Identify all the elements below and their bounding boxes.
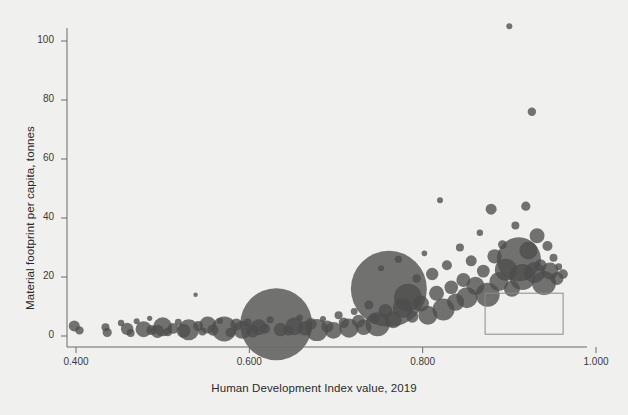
data-point — [456, 244, 464, 252]
x-axis-tick-label: 0.600 — [219, 356, 279, 367]
data-point — [486, 204, 497, 215]
y-axis-tick-label: 60 — [14, 152, 54, 163]
data-point — [442, 260, 452, 270]
y-axis-tick-label: 80 — [14, 93, 54, 104]
scatter-plot-canvas — [0, 0, 628, 415]
x-axis-title: Human Development Index value, 2019 — [0, 382, 628, 394]
data-point — [521, 202, 530, 211]
data-point — [444, 281, 458, 295]
data-point — [75, 326, 83, 334]
x-axis-tick-label: 0.400 — [46, 356, 106, 367]
data-point — [193, 293, 197, 297]
data-point — [555, 263, 562, 270]
data-point — [550, 254, 558, 262]
data-point — [530, 228, 545, 243]
data-point — [542, 241, 552, 251]
data-point — [528, 108, 536, 116]
data-point — [511, 221, 519, 229]
data-point — [147, 316, 152, 321]
data-point — [429, 286, 444, 301]
x-axis-ticks — [76, 347, 596, 353]
y-axis-tick-label: 20 — [14, 270, 54, 281]
data-point — [422, 251, 428, 257]
x-axis-tick-label: 1.000 — [566, 356, 626, 367]
chart-figure: Material footprint per capita, tonnes Hu… — [0, 0, 628, 415]
data-point — [351, 308, 358, 315]
data-point — [103, 328, 112, 337]
data-point — [412, 274, 420, 282]
data-point — [406, 311, 418, 323]
y-axis-tick-label: 0 — [14, 329, 54, 340]
y-axis-tick-label: 100 — [14, 34, 54, 45]
data-point — [395, 256, 402, 263]
data-points-layer — [69, 23, 568, 360]
y-axis-ticks — [61, 41, 67, 336]
axis-layer — [61, 28, 596, 353]
y-axis-tick-label: 40 — [14, 211, 54, 222]
data-point — [437, 197, 443, 203]
data-point — [506, 23, 512, 29]
data-point — [477, 265, 490, 278]
data-point — [558, 269, 568, 279]
data-point — [519, 241, 537, 259]
data-point — [296, 315, 302, 321]
data-point — [466, 255, 477, 266]
data-point — [127, 329, 135, 337]
data-point — [426, 268, 438, 280]
data-point — [477, 230, 483, 236]
x-axis-tick-label: 0.800 — [393, 356, 453, 367]
